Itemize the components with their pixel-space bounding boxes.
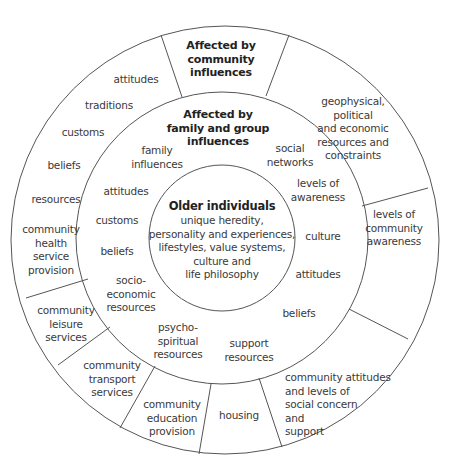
outer-list-attitudes: attitudes: [113, 73, 158, 87]
outer-list-resources: resources: [31, 193, 80, 207]
middle-item-culture: culture: [305, 230, 340, 244]
outer-list-beliefs: beliefs: [47, 159, 80, 173]
middle-item-attitudes-left: attitudes: [103, 185, 148, 199]
middle-item-levels-of-awareness: levels of awareness: [291, 177, 345, 204]
outer-segment-housing: housing: [219, 409, 259, 423]
center-title: Older individuals: [169, 200, 276, 214]
middle-item-psycho-spiritual: psycho- spiritual resources: [153, 321, 202, 362]
middle-ring-title: Affected by family and group influences: [167, 108, 270, 149]
outer-ring-title: Affected by community influences: [186, 39, 255, 80]
center-description: unique heredity, personality and experie…: [149, 214, 295, 282]
middle-item-social-networks: social networks: [267, 142, 314, 169]
middle-item-beliefs-right: beliefs: [282, 307, 315, 321]
outer-list-traditions: traditions: [85, 99, 133, 113]
outer-segment-transport: community transport services: [83, 359, 140, 400]
outer-segment-community-attitudes: community attitudes and levels of social…: [285, 371, 391, 439]
middle-item-beliefs-left: beliefs: [100, 245, 133, 259]
middle-item-support-resources: support resources: [224, 337, 273, 364]
outer-segment-leisure: community leisure services: [37, 304, 94, 345]
middle-item-customs: customs: [96, 214, 139, 228]
outer-segment-community-awareness: levels of community awareness: [365, 208, 422, 249]
outer-segment-education: community education provision: [143, 398, 200, 439]
middle-item-family-influences: family influences: [131, 144, 183, 171]
outer-segment-geophysical: geophysical, political and economic reso…: [317, 95, 388, 163]
outer-list-customs: customs: [62, 126, 105, 140]
middle-item-attitudes-right: attitudes: [295, 268, 340, 282]
outer-segment-health: community health service provision: [22, 223, 79, 277]
